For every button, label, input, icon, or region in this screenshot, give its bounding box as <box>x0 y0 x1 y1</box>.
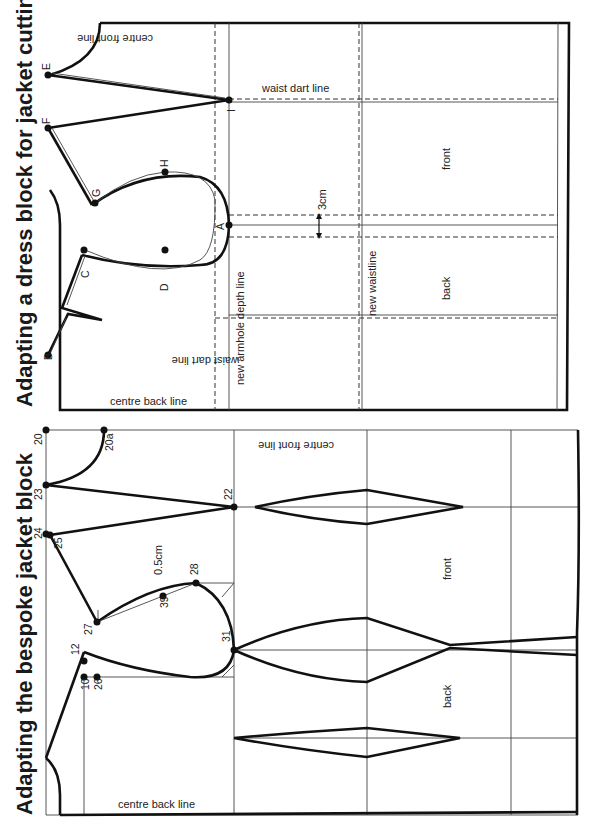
point-label-A: A <box>214 223 226 230</box>
point-label-10: 10 <box>79 678 91 690</box>
point-label-20: 20 <box>32 433 44 445</box>
point-label-27: 27 <box>82 623 94 635</box>
label-centre-back-line: centre back line <box>110 395 187 407</box>
label-centre-front-line: centre front line <box>258 440 334 452</box>
neck-curve <box>46 430 104 485</box>
point-label-26: 26 <box>92 678 104 690</box>
point-label-31: 31 <box>220 630 232 642</box>
point-label-28: 28 <box>188 563 200 575</box>
label-centre-front-line: centre front line <box>77 33 153 45</box>
point-label-39: 39 <box>158 596 170 608</box>
point-label-B: B <box>42 353 54 360</box>
back-waist-dart <box>234 728 460 757</box>
point-label-25: 25 <box>52 537 64 549</box>
point-label-12: 12 <box>69 643 81 655</box>
label-new-waistline: new waistline <box>366 251 378 316</box>
point-label-I: I <box>225 109 237 112</box>
side-seam-back <box>234 648 577 682</box>
side-seam-front <box>234 618 577 650</box>
point-label-H: H <box>158 159 170 167</box>
front-dart <box>46 485 234 535</box>
label-back: back <box>441 684 453 708</box>
figure-title-dress-block: Adapting a dress block for jacket cuttin… <box>12 0 37 407</box>
hem-line <box>577 430 579 815</box>
label-0.5cm: 0.5cm <box>152 545 164 575</box>
label-new-armhole-depth-line: new armhole depth line <box>234 271 246 385</box>
point-label-G: G <box>90 189 102 197</box>
point-label-C: C <box>79 270 91 278</box>
front-dart <box>48 75 229 128</box>
pattern-page: Adapting a dress block for jacket cuttin… <box>0 0 596 823</box>
point-label-E: E <box>40 63 52 70</box>
point-label-20a: 20a <box>103 433 115 451</box>
figure-bespoke-jacket-block: Adapting the bespoke jacket block <box>12 427 579 816</box>
figure-dress-block: Adapting a dress block for jacket cuttin… <box>12 0 569 410</box>
point-label-D: D <box>158 283 170 291</box>
label-3cm: 3cm <box>316 189 328 210</box>
figure-title-bespoke-jacket-block: Adapting the bespoke jacket block <box>12 452 37 815</box>
label-centre-back-line: centre back line <box>118 798 195 810</box>
front-neck-curve <box>50 23 100 75</box>
label-front: front <box>440 148 452 170</box>
label-waist-dart-line-front: waist dart line <box>261 82 329 94</box>
point-label-24: 24 <box>32 527 44 539</box>
label-front: front <box>441 558 453 580</box>
point-label-F: F <box>40 118 52 124</box>
label-back: back <box>440 276 452 300</box>
point-label-22: 22 <box>222 488 234 500</box>
point-label-23: 23 <box>32 488 44 500</box>
label-waist-dart-line-back: waist dart line <box>172 355 240 367</box>
